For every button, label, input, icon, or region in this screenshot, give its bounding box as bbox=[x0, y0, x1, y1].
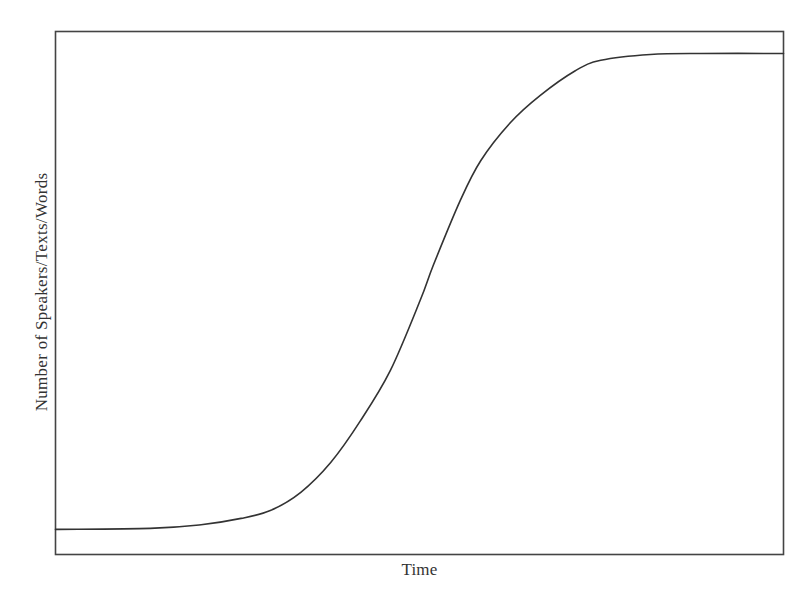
x-axis-label: Time bbox=[55, 560, 784, 580]
y-axis-label: Number of Speakers/Texts/Words bbox=[32, 173, 52, 412]
chart-canvas bbox=[0, 0, 805, 598]
s-curve-chart: Time Number of Speakers/Texts/Words bbox=[0, 0, 805, 598]
plot-frame bbox=[56, 32, 784, 555]
s-curve-line bbox=[56, 53, 784, 529]
